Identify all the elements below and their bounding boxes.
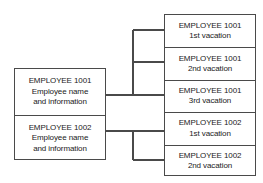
child-box-line-2: 2nd vacation <box>188 161 232 172</box>
parent-box-line-1: EMPLOYEE 1002 <box>29 123 92 134</box>
parent-box-line-2: Employee name <box>32 87 89 98</box>
child-box-employee-1001-vacation-2: EMPLOYEE 1001 2nd vacation <box>165 47 255 79</box>
child-box-line-2: 2nd vacation <box>188 64 232 75</box>
child-box-employee-1001-vacation-3: EMPLOYEE 1001 3rd vacation <box>165 80 255 112</box>
child-box-line-1: EMPLOYEE 1002 <box>179 151 242 162</box>
parent-box-line-2: Employee name <box>32 133 89 144</box>
parent-box-line-3: and information <box>33 97 87 108</box>
child-box-line-2: 1st vacation <box>189 129 231 140</box>
child-box-employee-1002-vacation-2: EMPLOYEE 1002 2nd vacation <box>165 145 255 177</box>
child-box-line-1: EMPLOYEE 1001 <box>179 86 242 97</box>
child-entity-stack: EMPLOYEE 1001 1st vacation EMPLOYEE 1001… <box>164 14 256 176</box>
parent-box-line-1: EMPLOYEE 1001 <box>29 76 92 87</box>
child-box-line-1: EMPLOYEE 1002 <box>179 118 242 129</box>
child-box-employee-1001-vacation-1: EMPLOYEE 1001 1st vacation <box>165 15 255 47</box>
child-box-employee-1002-vacation-1: EMPLOYEE 1002 1st vacation <box>165 112 255 144</box>
child-box-line-2: 1st vacation <box>189 31 231 42</box>
child-box-line-1: EMPLOYEE 1001 <box>179 54 242 65</box>
parent-entity-stack: EMPLOYEE 1001 Employee name and informat… <box>14 68 106 160</box>
parent-box-employee-1002: EMPLOYEE 1002 Employee name and informat… <box>15 115 105 161</box>
parent-box-employee-1001: EMPLOYEE 1001 Employee name and informat… <box>15 69 105 115</box>
child-box-line-1: EMPLOYEE 1001 <box>179 21 242 32</box>
child-box-line-2: 3rd vacation <box>189 96 231 107</box>
parent-box-line-3: and information <box>33 144 87 155</box>
entity-relationship-diagram: EMPLOYEE 1001 Employee name and informat… <box>0 0 263 183</box>
